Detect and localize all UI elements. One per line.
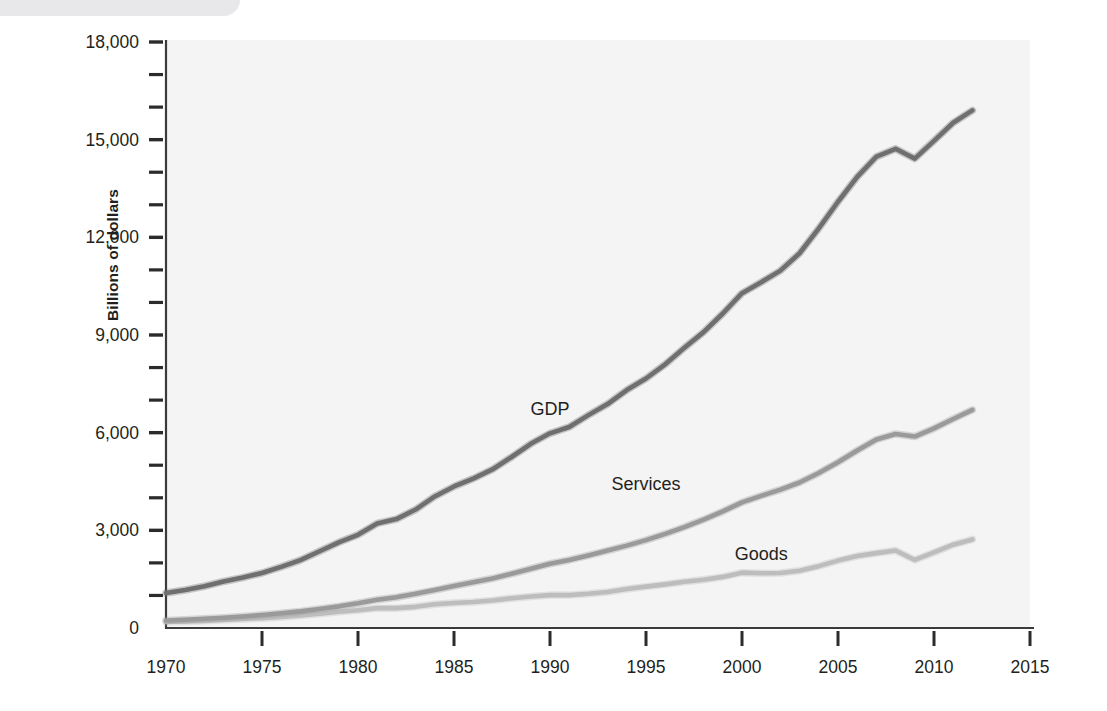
x-axis-tick-label: 1970: [147, 657, 186, 677]
y-axis-tick-label: 15,000: [85, 130, 139, 150]
y-axis-tick-label: 6,000: [95, 423, 139, 443]
y-axis-tick-label: 9,000: [95, 325, 139, 345]
series-annotation-label: Services: [611, 474, 680, 494]
y-axis-tick-label: 0: [129, 618, 139, 638]
x-axis-tick-label: 2005: [819, 657, 858, 677]
x-axis-tick-label: 2010: [915, 657, 954, 677]
series-annotation-label: GDP: [530, 399, 569, 419]
x-axis-tick-label: 1995: [627, 657, 666, 677]
x-axis-tick-label: 1985: [435, 657, 474, 677]
x-axis-tick-label: 1980: [339, 657, 378, 677]
y-axis-tick-label: 3,000: [95, 520, 139, 540]
series-annotation-label: Goods: [735, 544, 788, 564]
y-axis-tick-label: 18,000: [85, 32, 139, 52]
line-chart-canvas: 03,0006,0009,00012,00015,00018,000197019…: [0, 0, 1107, 711]
x-axis-tick-label: 2000: [723, 657, 762, 677]
x-axis-tick-label: 1990: [531, 657, 570, 677]
x-axis-tick-label: 1975: [243, 657, 282, 677]
y-axis-tick-label: 12,000: [85, 227, 139, 247]
plot-background: [166, 40, 1030, 628]
x-axis-tick-label: 2015: [1011, 657, 1050, 677]
chart-figure: Billions of dollars 03,0006,0009,00012,0…: [0, 0, 1107, 711]
